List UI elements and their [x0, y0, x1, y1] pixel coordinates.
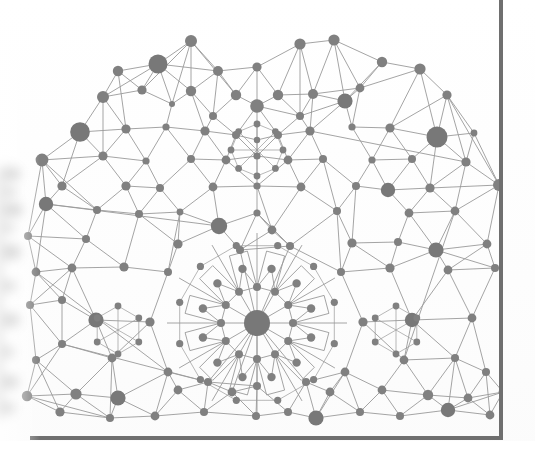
scanned-page — [0, 0, 535, 468]
figure-frame — [0, 0, 535, 468]
